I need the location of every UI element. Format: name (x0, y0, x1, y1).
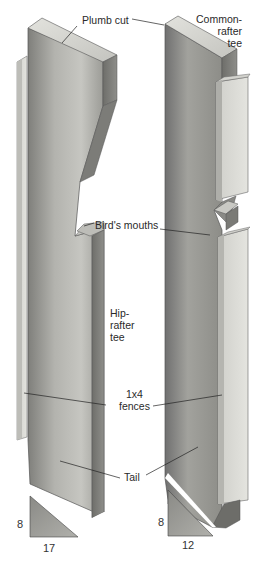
label-fences: 1x4 fences (119, 388, 150, 412)
label-hip-rafter-tee-line3: tee (110, 331, 135, 343)
label-fences-line2: fences (119, 400, 150, 412)
common-board-face (165, 24, 222, 527)
label-tail: Tail (124, 471, 140, 483)
label-hip-rafter-tee: Hip- rafter tee (110, 307, 135, 343)
label-birds-mouths: Bird's mouths (95, 219, 158, 231)
dim-common-run: 12 (182, 539, 194, 551)
dim-hip-run: 17 (43, 542, 55, 554)
dim-common-rise: 8 (158, 516, 164, 528)
label-hip-rafter-tee-line1: Hip- (110, 307, 135, 319)
label-common-rafter-tee-line1: Common- (196, 13, 242, 25)
dim-hip-rise: 8 (17, 518, 23, 530)
label-plumb-cut: Plumb cut (82, 14, 129, 26)
leader-common-rafter-tee (132, 19, 164, 25)
label-common-rafter-tee-line2: rafter (196, 25, 242, 37)
label-common-rafter-tee: Common- rafter tee (196, 13, 242, 49)
label-hip-rafter-tee-line2: rafter (110, 319, 135, 331)
label-fences-line1: 1x4 (119, 388, 150, 400)
hip-rafter-tee (17, 18, 117, 537)
label-common-rafter-tee-line3: tee (196, 37, 242, 49)
